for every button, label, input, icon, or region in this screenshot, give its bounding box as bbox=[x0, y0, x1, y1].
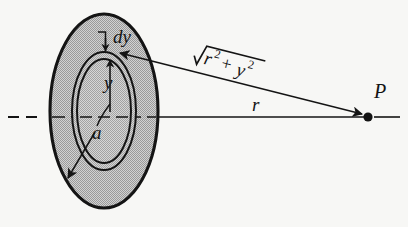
physics-diagram-figure: dy y a r P r 2 + y 2 bbox=[0, 0, 408, 227]
hypotenuse-y-base: y bbox=[232, 58, 248, 81]
label-a: a bbox=[92, 122, 102, 143]
hypotenuse-y-exponent: 2 bbox=[247, 57, 256, 72]
hypotenuse-plus-sign: + bbox=[219, 53, 234, 75]
label-dy: dy bbox=[113, 26, 132, 47]
label-point-p: P bbox=[373, 80, 386, 102]
diagram-canvas: dy y a r P r 2 + y 2 bbox=[0, 0, 408, 227]
field-point-p-dot bbox=[363, 112, 372, 121]
label-r: r bbox=[252, 94, 260, 115]
label-y: y bbox=[102, 72, 113, 93]
label-hypotenuse: r 2 + y 2 bbox=[191, 42, 265, 85]
